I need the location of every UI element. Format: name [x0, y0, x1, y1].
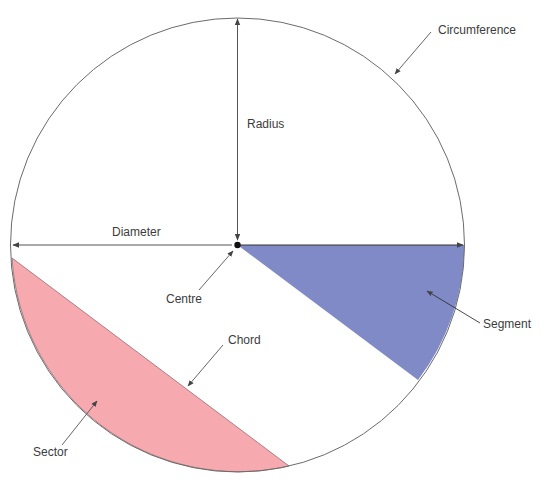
label-diameter: Diameter [112, 225, 161, 239]
label-radius: Radius [247, 117, 284, 131]
blue-sector-region [238, 245, 465, 380]
circumference-pointer [395, 32, 431, 74]
label-centre: Centre [166, 292, 202, 306]
label-chord: Chord [228, 333, 261, 347]
chord-pointer [188, 345, 223, 386]
label-sector: Sector [33, 445, 68, 459]
circle-parts-diagram: Circumference Radius Diameter Centre Seg… [0, 0, 545, 488]
label-circumference: Circumference [438, 23, 516, 37]
centre-pointer [199, 251, 233, 290]
pink-segment-region [12, 258, 289, 472]
label-segment: Segment [483, 317, 532, 331]
centre-point [234, 242, 240, 248]
